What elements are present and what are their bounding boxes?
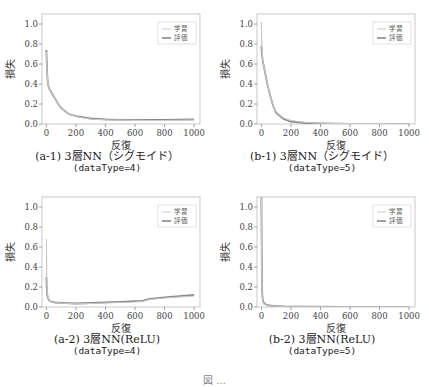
panel-a1: 0.00.20.40.60.81.002004006008001000反復損失学… bbox=[0, 0, 214, 180]
chart-b1: 0.00.20.40.60.81.002004006008001000反復損失学… bbox=[215, 0, 429, 150]
x-tick-label: 600 bbox=[342, 311, 358, 321]
y-tick-label: 0.6 bbox=[24, 59, 38, 69]
y-tick-label: 0.2 bbox=[239, 99, 253, 109]
y-axis-label: 損失 bbox=[219, 242, 231, 262]
x-tick-label: 1000 bbox=[398, 128, 420, 138]
y-tick-label: 0.8 bbox=[239, 222, 253, 232]
subcaption-b2: (dataType=5) bbox=[215, 345, 429, 356]
figure-caption: 図 ... bbox=[0, 372, 429, 387]
y-tick-label: 0.0 bbox=[239, 119, 253, 129]
x-tick-label: 0 bbox=[44, 311, 49, 321]
x-tick-label: 200 bbox=[283, 311, 299, 321]
x-tick-label: 0 bbox=[259, 311, 264, 321]
y-tick-label: 0.4 bbox=[239, 262, 253, 272]
y-tick-label: 1.0 bbox=[239, 202, 253, 212]
chart-a2: 0.00.20.40.60.81.002004006008001000反復損失学… bbox=[0, 183, 214, 333]
x-tick-label: 800 bbox=[156, 311, 172, 321]
y-tick-label: 1.0 bbox=[239, 19, 253, 29]
legend-label: 学習 bbox=[389, 207, 403, 216]
x-tick-label: 400 bbox=[312, 128, 328, 138]
x-tick-label: 800 bbox=[156, 128, 172, 138]
y-tick-label: 0.0 bbox=[24, 119, 38, 129]
y-tick-label: 0.6 bbox=[24, 242, 38, 252]
y-tick-label: 0.2 bbox=[24, 282, 38, 292]
y-tick-label: 0.6 bbox=[239, 59, 253, 69]
x-tick-label: 400 bbox=[312, 311, 328, 321]
x-tick-label: 1000 bbox=[183, 128, 205, 138]
legend-label: 学習 bbox=[389, 24, 403, 33]
x-tick-label: 1000 bbox=[183, 311, 205, 321]
legend-label: 評価 bbox=[389, 216, 403, 225]
y-axis-label: 損失 bbox=[4, 242, 16, 262]
x-tick-label: 0 bbox=[44, 128, 49, 138]
legend-label: 評価 bbox=[174, 216, 188, 225]
y-axis-label: 損失 bbox=[4, 59, 16, 79]
x-tick-label: 200 bbox=[68, 311, 84, 321]
y-tick-label: 0.4 bbox=[239, 79, 253, 89]
x-tick-label: 400 bbox=[97, 128, 113, 138]
caption-b2: (b-2) 3層NN(ReLU) bbox=[215, 330, 429, 346]
panel-b1: 0.00.20.40.60.81.002004006008001000反復損失学… bbox=[215, 0, 429, 180]
caption-a1: (a-1) 3層NN（シグモイド） bbox=[0, 147, 214, 163]
x-tick-label: 200 bbox=[283, 128, 299, 138]
y-tick-label: 0.8 bbox=[239, 39, 253, 49]
legend-label: 評価 bbox=[389, 33, 403, 42]
y-tick-label: 0.6 bbox=[239, 242, 253, 252]
chart-b2: 0.00.20.40.60.81.002004006008001000反復損失学… bbox=[215, 183, 429, 333]
legend-label: 評価 bbox=[174, 33, 188, 42]
x-tick-label: 600 bbox=[342, 128, 358, 138]
x-tick-label: 800 bbox=[371, 128, 387, 138]
y-tick-label: 0.2 bbox=[239, 282, 253, 292]
y-tick-label: 0.0 bbox=[24, 302, 38, 312]
y-tick-label: 1.0 bbox=[24, 202, 38, 212]
y-axis-label: 損失 bbox=[219, 59, 231, 79]
x-tick-label: 200 bbox=[68, 128, 84, 138]
y-tick-label: 1.0 bbox=[24, 19, 38, 29]
x-tick-label: 800 bbox=[371, 311, 387, 321]
y-tick-label: 0.4 bbox=[24, 79, 38, 89]
x-tick-label: 400 bbox=[97, 311, 113, 321]
subcaption-a2: (dataType=4) bbox=[0, 345, 214, 356]
panel-a2: 0.00.20.40.60.81.002004006008001000反復損失学… bbox=[0, 183, 214, 363]
panel-b2: 0.00.20.40.60.81.002004006008001000反復損失学… bbox=[215, 183, 429, 363]
subcaption-a1: (dataType=4) bbox=[0, 162, 214, 173]
legend-label: 学習 bbox=[174, 207, 188, 216]
y-tick-label: 0.4 bbox=[24, 262, 38, 272]
caption-b1: (b-1) 3層NN（シグモイド） bbox=[215, 147, 429, 163]
subcaption-b1: (dataType=5) bbox=[215, 162, 429, 173]
y-tick-label: 0.8 bbox=[24, 39, 38, 49]
x-tick-label: 600 bbox=[127, 311, 143, 321]
y-tick-label: 0.8 bbox=[24, 222, 38, 232]
y-tick-label: 0.0 bbox=[239, 302, 253, 312]
legend-label: 学習 bbox=[174, 24, 188, 33]
caption-a2: (a-2) 3層NN(ReLU) bbox=[0, 330, 214, 346]
x-tick-label: 600 bbox=[127, 128, 143, 138]
chart-a1: 0.00.20.40.60.81.002004006008001000反復損失学… bbox=[0, 0, 214, 150]
y-tick-label: 0.2 bbox=[24, 99, 38, 109]
x-tick-label: 1000 bbox=[398, 311, 420, 321]
x-tick-label: 0 bbox=[259, 128, 264, 138]
